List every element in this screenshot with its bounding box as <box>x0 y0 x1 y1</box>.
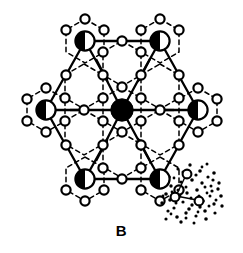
node-big-right <box>188 100 207 119</box>
node-big-left <box>36 100 55 119</box>
stipple-vertex-top <box>183 170 192 179</box>
stipple-vertex-right <box>195 197 204 206</box>
stipple-disordered-region <box>159 163 224 225</box>
figure-caption: B <box>0 222 243 240</box>
node-big-bottom-left <box>75 169 94 188</box>
node-big-top-left <box>75 31 94 50</box>
stipple-vertex-left <box>171 193 180 202</box>
node-big-bottom-right <box>150 169 169 188</box>
hexagonal-lattice-diagram <box>0 0 243 253</box>
figure-container: B <box>0 0 243 253</box>
node-center-filled <box>111 99 133 121</box>
node-big-top-right <box>150 31 169 50</box>
